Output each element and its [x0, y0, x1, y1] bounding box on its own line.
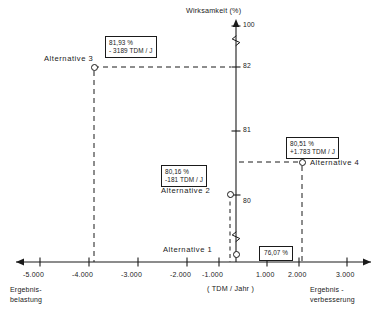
alt1-value-callout: 76,07 % [259, 246, 293, 261]
x-tick-label-minus-1000: -1.000 [202, 271, 223, 278]
alt4-pct-value: 80,51 % [290, 140, 335, 148]
alt1-point-label: Alternative 1 [163, 246, 212, 254]
caption-right-line2: verbesserung [310, 295, 355, 305]
caption-right-line1: Ergebnis - [310, 285, 355, 295]
alt3-data-point-marker[interactable] [91, 64, 98, 71]
alt3-point-label: Alternative 3 [44, 55, 93, 63]
alt4-point-label: Alternative 4 [310, 159, 359, 167]
alt2-data-point-marker[interactable] [227, 191, 234, 198]
x-tick-label-plus-1000: 1.000 [256, 271, 275, 278]
x-tick-label-plus-2000: 2.000 [288, 271, 307, 278]
x-tick-label-minus-2000: -2.000 [170, 271, 191, 278]
y-tick-label-81: 81 [243, 127, 251, 134]
x-axis-unit-label: ( TDM / Jahr ) [207, 285, 254, 292]
y-tick-label-100: 100 [243, 22, 255, 29]
caption-left-line1: Ergebnis- [10, 285, 42, 295]
alt3-pct-value: 81,93 % [109, 39, 153, 47]
alt3-money-value: - 3189 TDM / J [109, 47, 153, 55]
x-tick-label-minus-4000: -4.000 [72, 271, 93, 278]
alt2-pct-value: 80,16 % [165, 168, 203, 176]
x-tick-label-plus-3000: 3.000 [336, 271, 355, 278]
alt2-money-value: -181 TDM / J [165, 176, 203, 184]
caption-left-line2: belastung [10, 295, 42, 305]
alt2-value-callout: 80,16 % -181 TDM / J [161, 165, 207, 187]
alt2-point-label: Alternative 2 [161, 187, 210, 195]
x-axis-arrow-left [16, 259, 24, 266]
x-axis-arrow-right [363, 259, 371, 266]
y-axis-title: Wirksamkeit (%) [186, 7, 241, 14]
alt1-data-point-marker[interactable] [233, 251, 240, 258]
alt4-value-callout: 80,51 % +1.783 TDM / J [286, 137, 339, 159]
alt1-pct-value: 76,07 % [264, 249, 288, 257]
y-tick-label-80: 80 [243, 198, 251, 205]
y-tick-label-82: 82 [243, 63, 251, 70]
x-axis-caption-right: Ergebnis - verbesserung [310, 285, 355, 305]
x-axis-caption-left: Ergebnis- belastung [10, 285, 42, 305]
x-tick-label-minus-3000: -3.000 [121, 271, 142, 278]
alt4-money-value: +1.783 TDM / J [290, 148, 335, 156]
x-tick-label-minus-5000: -5.000 [23, 271, 44, 278]
chart-canvas: Wirksamkeit (%) 100 82 81 80 -5.000 -4.0… [0, 0, 387, 314]
alt4-data-point-marker[interactable] [299, 159, 306, 166]
alt3-value-callout: 81,93 % - 3189 TDM / J [105, 36, 157, 58]
